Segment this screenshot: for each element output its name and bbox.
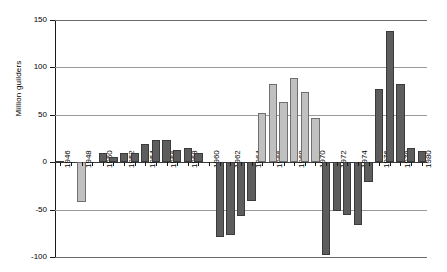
x-tick-mark	[124, 162, 125, 166]
x-tick-mark	[305, 162, 306, 166]
x-tick-mark	[273, 162, 274, 166]
x-tick-mark	[156, 162, 157, 166]
y-tick-label: 100	[21, 63, 47, 71]
bar-1972	[333, 162, 341, 210]
y-tick-mark	[50, 162, 55, 163]
y-tick-label: 150	[21, 16, 47, 24]
x-tick-mark	[347, 162, 348, 166]
x-tick-mark	[145, 162, 146, 166]
x-tick-mark	[422, 162, 423, 166]
x-tick-mark	[60, 162, 61, 166]
x-tick-mark	[71, 162, 72, 166]
bar-1974	[354, 162, 362, 225]
bar-1953	[131, 153, 139, 162]
x-tick-mark	[103, 162, 104, 166]
y-tick-mark	[50, 257, 55, 258]
y-tick-mark	[50, 115, 55, 116]
y-tick-mark	[50, 67, 55, 68]
x-tick-mark	[82, 162, 83, 166]
x-tick-mark	[326, 162, 327, 166]
y-axis-title: Million guilders	[14, 44, 23, 134]
x-tick-mark	[315, 162, 316, 166]
gridline	[55, 67, 427, 68]
x-tick-mark	[113, 162, 114, 166]
bar-1977	[386, 31, 394, 162]
bar-1971	[322, 162, 330, 255]
x-tick-mark	[379, 162, 380, 166]
y-tick-label: -100	[21, 253, 47, 261]
bar-1964	[247, 162, 255, 201]
bar-1961	[216, 162, 224, 237]
bar-1948	[77, 162, 85, 202]
x-tick-mark	[411, 162, 412, 166]
gridline	[55, 20, 427, 21]
bar-1973	[343, 162, 351, 215]
x-tick-mark	[220, 162, 221, 166]
gridline	[55, 257, 427, 258]
x-tick-mark	[252, 162, 253, 166]
x-tick-mark	[177, 162, 178, 166]
x-tick-mark	[92, 162, 93, 166]
bar-1979	[407, 148, 415, 162]
x-tick-mark	[294, 162, 295, 166]
plot-area: 150100500-50-100194619481950195219541956…	[55, 20, 427, 257]
y-tick-mark	[50, 210, 55, 211]
x-tick-mark	[230, 162, 231, 166]
x-tick-mark	[284, 162, 285, 166]
y-tick-mark	[50, 20, 55, 21]
bar-1967	[279, 102, 287, 162]
y-tick-label: -50	[21, 206, 47, 214]
x-tick-mark	[369, 162, 370, 166]
x-tick-mark	[198, 162, 199, 166]
gridline	[55, 115, 427, 116]
bar-1959	[194, 153, 202, 162]
x-tick-mark	[167, 162, 168, 166]
y-tick-label: 0	[21, 158, 47, 166]
x-tick-mark	[337, 162, 338, 166]
bar-chart: Million guilders 150100500-50-1001946194…	[0, 0, 447, 272]
bar-1962	[226, 162, 234, 235]
x-tick-mark	[358, 162, 359, 166]
bar-1965	[258, 113, 266, 162]
x-tick-label: 1980	[425, 150, 433, 168]
x-tick-mark	[400, 162, 401, 166]
y-tick-label: 50	[21, 111, 47, 119]
x-tick-mark	[390, 162, 391, 166]
x-tick-mark	[188, 162, 189, 166]
x-tick-mark	[262, 162, 263, 166]
x-tick-mark	[209, 162, 210, 166]
bar-1963	[237, 162, 245, 216]
bar-1955	[152, 140, 160, 162]
x-tick-mark	[135, 162, 136, 166]
x-tick-mark	[241, 162, 242, 166]
bar-1969	[301, 92, 309, 162]
bar-1957	[173, 150, 181, 162]
